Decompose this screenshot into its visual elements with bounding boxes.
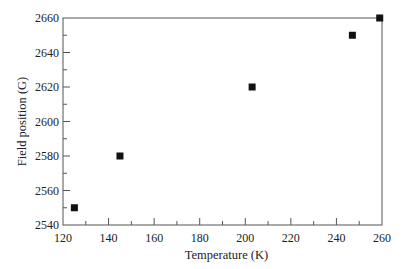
- y-tick-label: 2540: [35, 218, 59, 232]
- plot-border: [63, 18, 382, 225]
- x-tick-label: 220: [282, 231, 300, 245]
- y-tick-label: 2620: [35, 80, 59, 94]
- square-marker: [349, 32, 356, 39]
- y-tick-label: 2580: [35, 149, 59, 163]
- x-axis-ticks: 120140160180200220240260: [54, 218, 391, 245]
- x-tick-label: 260: [373, 231, 391, 245]
- square-marker: [116, 153, 123, 160]
- plot-frame: [63, 18, 382, 225]
- y-axis-ticks: 2540256025802600262026402660: [35, 11, 70, 232]
- x-tick-label: 180: [191, 231, 209, 245]
- y-tick-label: 2660: [35, 11, 59, 25]
- x-axis-title: Temperature (K): [185, 248, 268, 262]
- y-tick-label: 2560: [35, 184, 59, 198]
- square-marker: [376, 15, 383, 22]
- y-axis-title: Field position (G): [15, 77, 29, 167]
- x-tick-label: 120: [54, 231, 72, 245]
- chart-canvas: 120140160180200220240260 254025602580260…: [0, 0, 404, 269]
- scatter-chart: 120140160180200220240260 254025602580260…: [0, 0, 404, 269]
- x-tick-label: 160: [145, 231, 163, 245]
- y-tick-label: 2600: [35, 115, 59, 129]
- x-tick-label: 140: [100, 231, 118, 245]
- square-marker: [249, 84, 256, 91]
- square-marker: [71, 204, 78, 211]
- x-tick-label: 240: [327, 231, 345, 245]
- x-tick-label: 200: [236, 231, 254, 245]
- data-points: [71, 15, 383, 212]
- y-tick-label: 2640: [35, 46, 59, 60]
